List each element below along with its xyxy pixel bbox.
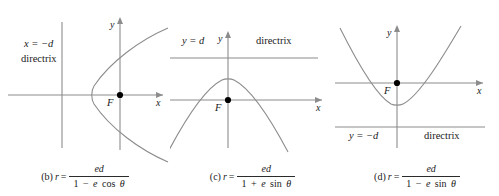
den-one: 1 <box>73 178 78 189</box>
den-trig: cos <box>102 178 115 189</box>
conics-figure: x = −d directrix y x F (b) r = ed 1 − e … <box>0 0 499 196</box>
y-axis <box>225 31 231 148</box>
panel-b-denominator: 1 − e cos θ <box>69 176 128 190</box>
panel-c-fraction: ed 1 + e sin θ <box>237 163 295 189</box>
x-axis <box>335 80 483 86</box>
y-axis-label: y <box>110 20 114 30</box>
panel-c-numerator: ed <box>257 163 276 176</box>
directrix-word-label: directrix <box>424 131 460 142</box>
y-axis-label: y <box>218 34 222 44</box>
panel-b-lhs: r <box>55 171 59 182</box>
panel-c-lhs: r <box>223 171 227 182</box>
den-sign: + <box>251 178 257 189</box>
den-e: e <box>426 178 430 189</box>
den-one: 1 <box>241 178 246 189</box>
panel-b-tag: (b) <box>41 171 53 182</box>
den-one: 1 <box>406 178 411 189</box>
panel-c: y = d directrix y x F (c) r = ed 1 + e s… <box>170 0 335 196</box>
panel-d-lhs: r <box>388 171 392 182</box>
focus-label: F <box>384 86 390 97</box>
panel-c-tag: (c) <box>210 171 221 182</box>
directrix-equation-label: y = −d <box>349 131 378 142</box>
parabola-curve <box>340 26 461 105</box>
den-e: e <box>93 178 97 189</box>
directrix-word-label: directrix <box>256 36 292 47</box>
den-sign: − <box>416 178 422 189</box>
directrix-equation-label: x = −d <box>24 39 53 50</box>
panel-b-numerator: ed <box>89 163 108 176</box>
panel-c-equals: = <box>229 171 235 182</box>
focus-label: F <box>215 103 221 114</box>
parabola-curve <box>170 79 288 152</box>
directrix-equation-label: y = d <box>182 36 204 47</box>
y-axis-label: y <box>387 28 391 38</box>
den-trig: sin <box>435 178 447 189</box>
x-axis <box>170 97 322 103</box>
x-axis-label: x <box>316 103 320 113</box>
focus-point <box>225 97 231 103</box>
panel-d-denominator: 1 − e sin θ <box>402 176 460 190</box>
panel-c-denominator: 1 + e sin θ <box>237 176 295 190</box>
panel-d-numerator: ed <box>421 163 440 176</box>
den-theta: θ <box>120 178 125 189</box>
focus-point <box>394 80 400 86</box>
panel-b-caption: (b) r = ed 1 − e cos θ <box>0 160 170 192</box>
den-theta: θ <box>286 178 291 189</box>
den-sign: − <box>83 178 89 189</box>
panel-d-equals: = <box>394 171 400 182</box>
panel-b-fraction: ed 1 − e cos θ <box>69 163 128 189</box>
panel-b-equals: = <box>61 171 67 182</box>
den-theta: θ <box>451 178 456 189</box>
focus-point <box>117 92 123 98</box>
panel-d-caption: (d) r = ed 1 − e sin θ <box>335 160 499 192</box>
panel-d-fraction: ed 1 − e sin θ <box>402 163 460 189</box>
panel-d-tag: (d) <box>374 171 386 182</box>
x-axis-label: x <box>477 86 481 96</box>
focus-label: F <box>107 98 113 109</box>
den-e: e <box>261 178 265 189</box>
panel-c-caption: (c) r = ed 1 + e sin θ <box>170 160 335 192</box>
x-axis <box>8 92 163 98</box>
y-axis <box>394 25 400 148</box>
den-trig: sin <box>270 178 282 189</box>
panel-b: x = −d directrix y x F (b) r = ed 1 − e … <box>0 0 170 196</box>
x-axis-label: x <box>156 98 160 108</box>
directrix-word-label: directrix <box>21 54 57 65</box>
panel-d: y = −d directrix y x F (d) r = ed 1 − e … <box>335 0 499 196</box>
